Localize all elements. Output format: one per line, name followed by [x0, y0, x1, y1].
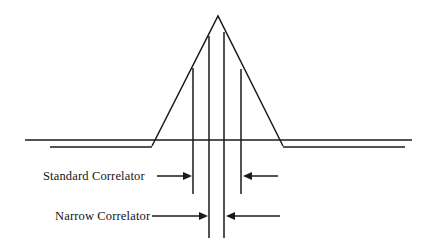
correlation-triangle	[152, 16, 283, 146]
standard-left-arrowhead	[183, 172, 192, 180]
narrow-right-arrowhead	[226, 212, 235, 220]
narrow-left-arrowhead	[199, 212, 208, 220]
standard-correlator-label: Standard Correlator	[43, 169, 145, 183]
diagram-canvas: Standard Correlator Narrow Correlator	[0, 0, 433, 250]
standard-right-arrowhead	[243, 172, 252, 180]
narrow-correlator-label: Narrow Correlator	[55, 209, 151, 223]
correlator-diagram: Standard Correlator Narrow Correlator	[0, 0, 433, 250]
